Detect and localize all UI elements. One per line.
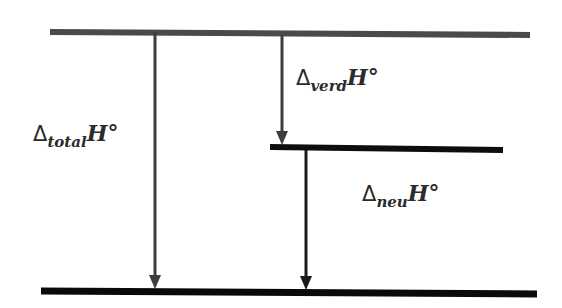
subscript-verd: verd <box>310 77 347 95</box>
top-energy-level <box>50 32 530 35</box>
subscript-total: total <box>47 133 86 151</box>
middle-energy-level <box>270 147 503 150</box>
delta-symbol: Δ <box>33 122 47 146</box>
delta-symbol: Δ <box>296 66 310 90</box>
diagram-canvas <box>0 0 562 308</box>
enthalpy-symbol: H° <box>347 64 379 90</box>
arrow-neu <box>300 150 312 290</box>
delta-symbol: Δ <box>362 182 376 206</box>
enthalpy-diagram: ΔtotalH° ΔverdH° ΔneuH° <box>0 0 562 308</box>
label-verd-enthalpy: ΔverdH° <box>296 66 379 89</box>
subscript-neu: neu <box>376 193 407 211</box>
enthalpy-symbol: H° <box>408 180 440 206</box>
arrow-verd <box>276 35 288 145</box>
label-total-enthalpy: ΔtotalH° <box>33 122 118 145</box>
enthalpy-symbol: H° <box>87 120 119 146</box>
label-neu-enthalpy: ΔneuH° <box>362 182 440 205</box>
arrow-total <box>149 32 161 289</box>
bottom-energy-level <box>41 291 537 294</box>
